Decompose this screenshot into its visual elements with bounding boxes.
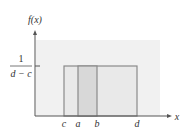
y-tick-denominator: d − c	[10, 68, 32, 79]
x-tick-c: c	[62, 118, 67, 129]
density-rectangle	[64, 66, 137, 116]
uniform-distribution-figure: 1 d − c f(x) x c a b d	[0, 0, 189, 131]
y-axis-arrow-icon	[33, 30, 37, 35]
x-tick-d: d	[135, 118, 141, 129]
x-axis-label: x	[174, 111, 180, 122]
x-tick-a: a	[76, 118, 81, 129]
y-tick-numerator: 1	[19, 53, 24, 64]
x-axis-arrow-icon	[167, 114, 172, 118]
y-axis-label: f(x)	[28, 14, 43, 26]
shaded-probability-region	[78, 66, 97, 116]
chart-canvas: 1 d − c f(x) x c a b d	[0, 0, 189, 131]
x-tick-b: b	[95, 118, 100, 129]
